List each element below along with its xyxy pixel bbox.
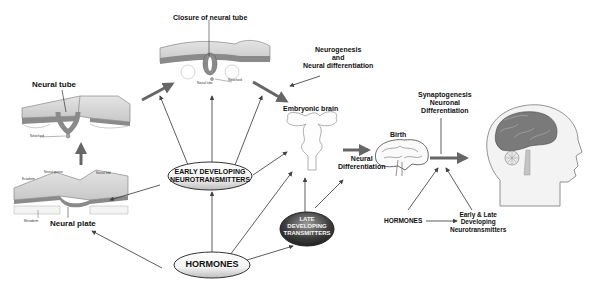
tiny-mesoderm: Mesoderm <box>24 219 38 223</box>
neural-diff-line1: Neural <box>338 155 385 163</box>
label-synaptogenesis: Synaptogenesis Neuronal Differentiation <box>418 91 472 115</box>
late-line1: LATE <box>280 216 334 223</box>
tiny-neural-tube: Neural tube <box>197 81 213 85</box>
early-late-line3: Neurotransmitters <box>450 226 506 233</box>
neural-tube-illustration <box>22 90 130 138</box>
diagram-canvas <box>0 0 594 293</box>
influence-arrows <box>92 76 472 268</box>
tiny-neural-groove: Neural groove <box>44 170 63 174</box>
adult-head-illustration <box>487 105 582 206</box>
early-line2: NEUROTRANSMITTERS <box>168 176 252 184</box>
synapto-line3: Differentiation <box>418 107 472 115</box>
embryonic-brain-illustration <box>287 112 337 170</box>
tiny-notochord: Notochord <box>30 134 44 138</box>
neural-diff-line2: Differentiation <box>338 163 385 171</box>
label-closure: Closure of neural tube <box>173 14 247 22</box>
label-neural-differentiation: Neural Differentiation <box>338 155 385 171</box>
tiny-neural-fold: Neural fold <box>96 171 111 175</box>
late-line2: DEVELOPING <box>280 223 334 230</box>
hormones-right-label: HORMONES <box>384 217 422 224</box>
label-neurogenesis: Neurogenesis and Neural differentiation <box>303 46 373 70</box>
late-developing-label: LATE DEVELOPING TRANSMITTERS <box>280 216 334 237</box>
label-embryonic-brain: Embryonic brain <box>283 105 338 113</box>
hormones-label: HORMONES <box>174 259 250 269</box>
neurogenesis-line2: and <box>303 54 373 62</box>
early-line1: EARLY DEVELOPING <box>168 168 252 176</box>
neurogenesis-line3: Neural differentiation <box>303 62 373 70</box>
late-line3: TRANSMITTERS <box>280 230 334 237</box>
label-birth: Birth <box>390 131 406 139</box>
tiny-ectoderm: Ectoderm <box>22 177 35 181</box>
closure-illustration <box>160 20 270 82</box>
early-late-line2: Developing <box>450 218 506 225</box>
early-late-label: Early & Late Developing Neurotransmitter… <box>450 211 506 233</box>
neurogenesis-line1: Neurogenesis <box>303 46 373 54</box>
label-neural-tube: Neural tube <box>32 80 76 89</box>
label-neural-plate: Neural plate <box>50 219 96 228</box>
synapto-line2: Neuronal <box>418 99 472 107</box>
early-late-line1: Early & Late <box>450 211 506 218</box>
synapto-line1: Synaptogenesis <box>418 91 472 99</box>
tiny-notochord-2: Notochord <box>228 78 242 82</box>
early-developing-label: EARLY DEVELOPING NEUROTRANSMITTERS <box>168 168 252 184</box>
